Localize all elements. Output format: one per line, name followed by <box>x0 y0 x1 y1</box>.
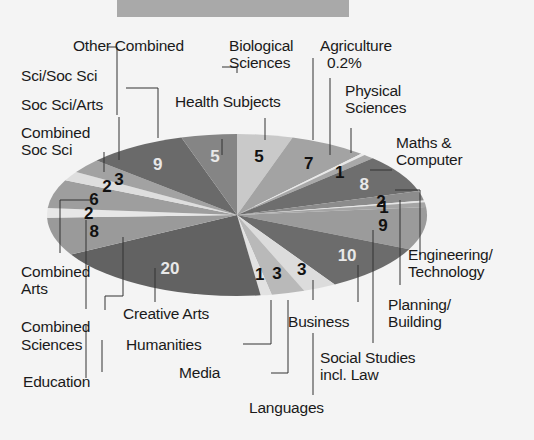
leader-media <box>271 300 288 373</box>
slice-value: 9 <box>153 155 162 174</box>
label-engineering-2: Technology <box>408 263 484 280</box>
slice-value: 3 <box>297 260 306 279</box>
label-physical-2: Sciences <box>345 99 406 116</box>
slice-value: 8 <box>89 222 98 241</box>
label-combined-sciences-2: Sciences <box>21 336 82 353</box>
label-planning-1: Planning/ <box>388 296 451 313</box>
leader-sci-soc-sci <box>126 88 158 138</box>
label-social-studies-2: incl. Law <box>320 366 379 383</box>
label-soc-sci-arts: Soc Sci/Arts <box>21 96 103 113</box>
label-sci-soc-sci: Sci/Soc Sci <box>21 67 97 84</box>
label-biological-2: Sciences <box>229 54 290 71</box>
label-combined-arts-1: Combined <box>21 263 90 280</box>
label-social-studies-1: Social Studies <box>320 349 415 366</box>
label-combined-sciences-1: Combined <box>21 318 90 335</box>
label-engineering-1: Engineering/ <box>408 246 493 263</box>
slice-value: 10 <box>338 246 357 265</box>
label-biological-1: Biological <box>229 37 293 54</box>
leader-humanities <box>243 300 271 344</box>
label-other-combined: Other Combined <box>73 37 184 54</box>
leader-other-combined <box>107 47 117 115</box>
slice-value: 1 <box>335 163 344 182</box>
label-combined-arts-2: Arts <box>21 280 48 297</box>
label-agriculture-2: 0.2% <box>327 54 362 71</box>
label-combined-soc-sci-1: Combined <box>21 124 90 141</box>
slice-value: 5 <box>210 147 219 166</box>
label-agriculture-1: Agriculture <box>320 37 392 54</box>
label-business: Business <box>288 313 349 330</box>
label-maths-2: Computer <box>396 151 462 168</box>
slice-value: 7 <box>304 154 313 173</box>
label-combined-soc-sci-2: Soc Sci <box>21 141 72 158</box>
label-languages: Languages <box>249 399 324 416</box>
label-health-subjects: Health Subjects <box>175 93 281 110</box>
slice-value: 8 <box>360 175 369 194</box>
slice-value: 9 <box>378 216 387 235</box>
slice-value: 3 <box>114 170 123 189</box>
slice-value: 1 <box>379 198 388 217</box>
label-maths-1: Maths & <box>396 134 451 151</box>
slice-value: 5 <box>254 147 263 166</box>
slice-value: 20 <box>161 259 180 278</box>
label-media: Media <box>179 364 220 381</box>
label-humanities: Humanities <box>126 336 202 353</box>
label-planning-2: Building <box>388 313 442 330</box>
label-creative-arts: Creative Arts <box>123 305 209 322</box>
label-physical-1: Physical <box>345 82 401 99</box>
slice-value: 1 <box>255 265 264 284</box>
slice-value: 3 <box>272 264 281 283</box>
slice-value: 2 <box>102 177 111 196</box>
label-education: Education <box>23 373 90 390</box>
